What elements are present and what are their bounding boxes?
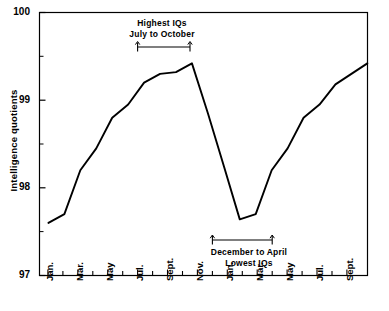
plot-frame <box>40 13 368 276</box>
y-tick-label-99: 99 <box>6 94 30 105</box>
y-tick-label-97: 97 <box>6 269 30 280</box>
x-tick-label-jul-2: Jul. <box>314 265 325 281</box>
annotation-highest-line1: Highest IQs <box>110 18 214 28</box>
data-line <box>48 63 367 223</box>
annotation-lowest-line1: December to April <box>186 247 312 257</box>
annotation-lowest-range-bar <box>210 235 274 245</box>
x-tick-label-jul-1: Jul. <box>134 265 145 281</box>
chart-figure: Intelligence quotients 100 99 98 97 Jan.… <box>0 0 389 311</box>
annotation-highest-line2: July to October <box>110 29 214 39</box>
y-tick-label-98: 98 <box>6 181 30 192</box>
x-tick-label-may-1: May <box>104 263 115 281</box>
annotation-lowest-line2: Lowest IQs <box>186 258 312 268</box>
x-tick-label-jan-1: Jan. <box>44 262 55 281</box>
y-tick-label-100: 100 <box>6 6 30 17</box>
x-tick-label-sept-1: Sept. <box>164 258 175 281</box>
annotation-highest-range-bar <box>135 42 192 52</box>
x-tick-label-mar-1: Mar. <box>74 262 85 281</box>
y-axis-label-container: Intelligence quotients <box>2 0 24 280</box>
x-tick-label-sept-2: Sept. <box>344 258 355 281</box>
